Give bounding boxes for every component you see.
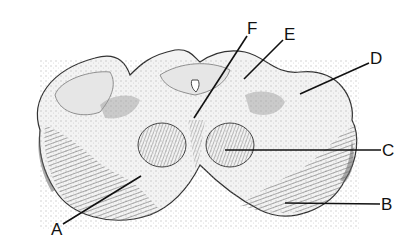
leader-line-B — [285, 203, 380, 204]
peduncles — [138, 120, 254, 170]
label-A: A — [51, 220, 63, 239]
label-E: E — [284, 25, 295, 44]
label-C: C — [382, 141, 394, 160]
label-D: D — [370, 49, 382, 68]
brainstem-diagram: F E D C B A — [0, 0, 416, 248]
label-F: F — [247, 19, 257, 38]
label-B: B — [381, 195, 392, 214]
